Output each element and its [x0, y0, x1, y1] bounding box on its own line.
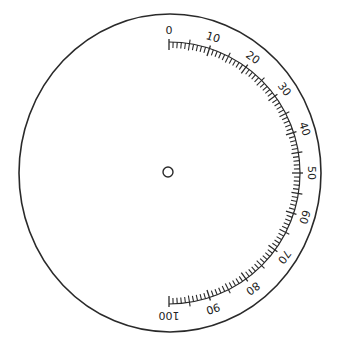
- minor-tick: [229, 58, 232, 63]
- minor-tick: [290, 204, 296, 205]
- minor-tick: [272, 243, 277, 246]
- minor-tick: [192, 296, 193, 302]
- minor-tick: [263, 256, 268, 260]
- minor-tick: [185, 297, 186, 303]
- minor-tick: [277, 237, 282, 240]
- minor-tick: [192, 44, 193, 50]
- minor-tick: [265, 89, 270, 93]
- minor-tick: [293, 189, 299, 190]
- medium-tick: [291, 152, 302, 154]
- minor-tick: [279, 110, 284, 113]
- minor-tick: [236, 279, 239, 284]
- minor-tick: [249, 269, 253, 274]
- minor-tick: [211, 291, 213, 297]
- scale-label: 80: [243, 279, 262, 298]
- minor-tick: [215, 289, 217, 295]
- scale-label: 30: [275, 80, 294, 99]
- minor-tick: [268, 250, 273, 254]
- medium-tick: [225, 283, 230, 293]
- minor-tick: [279, 233, 284, 236]
- minor-tick: [265, 253, 270, 257]
- minor-tick: [260, 83, 264, 87]
- minor-tick: [204, 47, 206, 53]
- minor-tick: [185, 43, 186, 49]
- minor-tick: [289, 136, 295, 138]
- minor-tick: [211, 50, 213, 56]
- medium-tick: [188, 295, 190, 306]
- scale-label: 20: [243, 48, 262, 67]
- medium-tick: [188, 40, 190, 51]
- scale-ticks: [169, 39, 303, 307]
- minor-tick: [287, 215, 293, 217]
- medium-tick: [291, 192, 302, 194]
- minor-tick: [239, 276, 242, 281]
- major-tick: [207, 46, 210, 56]
- minor-tick: [219, 288, 221, 294]
- scale-label: 40: [296, 120, 313, 137]
- minor-tick: [233, 281, 236, 286]
- minor-tick: [260, 259, 264, 263]
- center-mark: [163, 167, 173, 177]
- minor-tick: [277, 106, 282, 109]
- minor-tick: [291, 200, 297, 201]
- minor-tick: [249, 72, 253, 77]
- minor-tick: [282, 117, 287, 120]
- outer-circle: [19, 14, 321, 332]
- minor-tick: [275, 240, 280, 243]
- minor-tick: [222, 54, 225, 59]
- minor-tick: [246, 69, 250, 74]
- graduated-scale: 0102030405060708090100: [159, 24, 319, 322]
- minor-tick: [290, 140, 296, 141]
- scale-label: 70: [275, 247, 294, 266]
- minor-tick: [282, 226, 287, 229]
- medium-tick: [279, 112, 289, 117]
- minor-tick: [196, 45, 197, 51]
- minor-tick: [204, 293, 206, 299]
- minor-tick: [239, 65, 242, 70]
- minor-tick: [293, 185, 299, 186]
- minor-tick: [181, 43, 182, 49]
- minor-tick: [287, 129, 293, 131]
- minor-tick: [252, 267, 256, 272]
- minor-tick: [272, 99, 277, 102]
- minor-tick: [292, 148, 298, 149]
- minor-tick: [252, 75, 256, 80]
- scale-label: 100: [159, 309, 180, 322]
- major-tick: [286, 211, 296, 214]
- scale-label: 10: [204, 29, 221, 46]
- minor-tick: [284, 223, 290, 225]
- scale-label: 50: [305, 166, 318, 180]
- minor-tick: [222, 286, 225, 291]
- major-tick: [207, 290, 210, 300]
- minor-tick: [291, 144, 297, 145]
- major-tick: [286, 132, 296, 135]
- minor-tick: [268, 93, 273, 97]
- scale-baseline: [169, 42, 300, 304]
- minor-tick: [263, 86, 268, 90]
- minor-tick: [236, 62, 239, 67]
- minor-tick: [289, 208, 295, 210]
- minor-tick: [293, 157, 299, 158]
- medium-tick: [279, 229, 289, 234]
- scale-label: 0: [166, 24, 173, 37]
- minor-tick: [292, 196, 298, 197]
- minor-tick: [293, 161, 299, 162]
- minor-tick: [285, 125, 291, 127]
- minor-tick: [215, 51, 217, 57]
- scale-label: 60: [296, 208, 313, 225]
- minor-tick: [233, 60, 236, 65]
- minor-tick: [275, 103, 280, 106]
- minor-tick: [285, 219, 291, 221]
- minor-tick: [229, 283, 232, 288]
- minor-tick: [219, 53, 221, 59]
- minor-tick: [255, 264, 259, 268]
- minor-tick: [246, 272, 250, 277]
- scale-label: 90: [204, 300, 221, 317]
- minor-tick: [181, 297, 182, 303]
- minor-tick: [196, 295, 197, 301]
- minor-tick: [284, 121, 290, 123]
- minor-tick: [255, 78, 259, 82]
- minor-tick: [200, 46, 201, 52]
- dial-diagram: 0102030405060708090100: [0, 0, 338, 341]
- minor-tick: [200, 294, 201, 300]
